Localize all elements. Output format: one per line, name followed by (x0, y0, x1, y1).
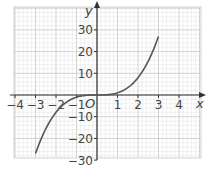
svg-text:3: 3 (155, 98, 163, 112)
svg-text:1: 1 (114, 98, 122, 112)
svg-text:30: 30 (78, 23, 93, 37)
svg-text:−10: −10 (68, 110, 93, 124)
svg-text:−4: −4 (6, 98, 24, 112)
cubic-graph: −4−3−2−11234−30−20−10102030 x y O (0, 0, 210, 173)
svg-text:−20: −20 (68, 132, 93, 146)
x-axis-label: x (195, 96, 204, 111)
y-axis-label: y (84, 3, 93, 18)
svg-text:4: 4 (175, 98, 183, 112)
svg-text:2: 2 (134, 98, 142, 112)
svg-text:20: 20 (78, 45, 93, 59)
svg-text:−30: −30 (68, 154, 93, 168)
origin-label: O (85, 96, 95, 111)
svg-text:10: 10 (78, 67, 93, 81)
svg-text:−3: −3 (27, 98, 45, 112)
